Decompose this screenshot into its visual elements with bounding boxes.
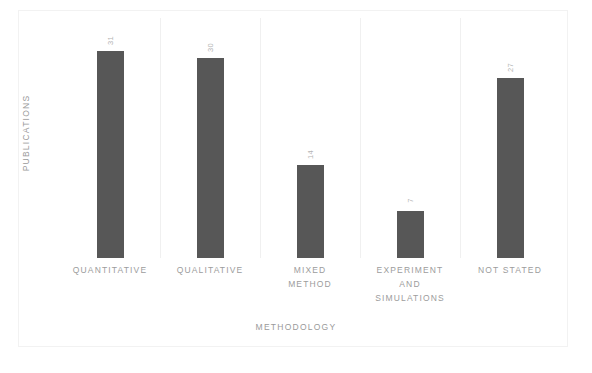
category-label-line: SIMULATIONS [360,291,460,305]
category-label-line: AND [360,277,460,291]
bar[interactable] [297,165,324,258]
category-label-line: METHOD [260,277,360,291]
category-label-line: QUANTITATIVE [60,263,160,277]
category-label-line: MIXED [260,263,360,277]
category-label: MIXEDMETHOD [260,263,360,305]
bar-slot: 31 [60,18,160,258]
plot-area: 313014727 [60,18,560,258]
bar-slot: 7 [360,18,460,258]
bar[interactable] [197,58,224,258]
category-label: NOT STATED [460,263,560,305]
category-label: QUANTITATIVE [60,263,160,305]
category-label-line: NOT STATED [460,263,560,277]
bar-value-label: 27 [506,63,515,72]
category-label-line: EXPERIMENT [360,263,460,277]
x-axis-title: METHODOLOGY [0,322,592,332]
bar-value-label: 7 [406,198,415,203]
bar-slot: 14 [260,18,360,258]
category-label-line: QUALITATIVE [160,263,260,277]
y-axis-title: PUBLICATIONS [21,73,31,193]
bar[interactable] [497,78,524,258]
bar-chart-figure: PUBLICATIONS 313014727 QUANTITATIVEQUALI… [0,0,592,373]
category-label: QUALITATIVE [160,263,260,305]
x-axis-category-labels: QUANTITATIVEQUALITATIVEMIXEDMETHODEXPERI… [60,263,560,305]
bar-series: 313014727 [60,18,560,258]
bar-slot: 27 [460,18,560,258]
bar-slot: 30 [160,18,260,258]
bar-value-label: 30 [206,43,215,52]
category-label: EXPERIMENTANDSIMULATIONS [360,263,460,305]
bar[interactable] [97,51,124,258]
bar[interactable] [397,211,424,258]
bar-value-label: 31 [106,36,115,45]
bar-value-label: 14 [306,150,315,159]
